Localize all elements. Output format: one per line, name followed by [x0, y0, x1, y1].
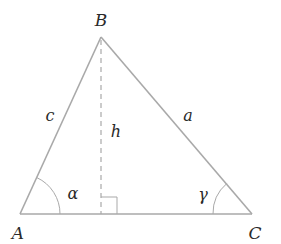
angle-label-alpha: α — [68, 184, 79, 203]
side-label-a: a — [183, 106, 193, 125]
right-angle-marker — [101, 197, 117, 214]
side-c — [20, 37, 101, 214]
vertex-label-c: C — [248, 223, 261, 243]
side-label-c: c — [46, 106, 55, 125]
angle-alpha-arc — [37, 178, 60, 214]
side-a — [101, 37, 252, 214]
angle-label-gamma: γ — [198, 185, 208, 204]
angle-gamma-arc — [213, 184, 227, 214]
triangle-diagram: B A C c a h α γ — [0, 0, 281, 244]
vertex-label-b: B — [94, 10, 108, 30]
height-label-h: h — [111, 122, 121, 141]
vertex-label-a: A — [10, 223, 24, 243]
